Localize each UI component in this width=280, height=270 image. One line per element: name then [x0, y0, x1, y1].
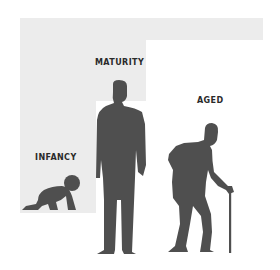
- life-stages-diagram: MATURITY AGED INFANCY: [0, 0, 280, 270]
- elderly-with-cane-icon: [0, 0, 280, 270]
